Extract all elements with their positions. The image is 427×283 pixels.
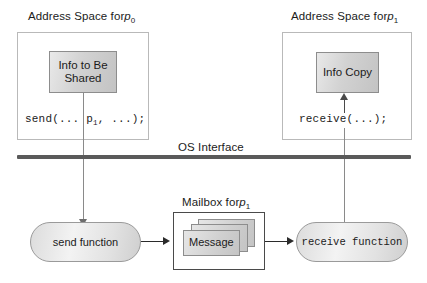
receive-to-infocopy-arrowhead (340, 93, 348, 100)
address-space-left-proc: p0 (124, 10, 135, 22)
send-function-capsule[interactable]: send function (30, 222, 141, 262)
send-call-text: send(... p1, ...); (25, 113, 145, 127)
send-to-mailbox-connector (141, 241, 165, 242)
diagram-canvas: Address Space forp0 Address Space forp1 … (0, 0, 427, 283)
send-to-mailbox-arrowhead (163, 237, 170, 245)
info-copy-label: Info Copy (323, 66, 372, 79)
address-space-right-title: Address Space forp1 (291, 10, 398, 25)
receive-to-infocopy-connector (344, 99, 345, 113)
mailbox-to-receive-arrowhead (287, 237, 294, 245)
info-copy-box: Info Copy (316, 52, 379, 93)
mailbox-frame: Message (173, 212, 265, 270)
mailbox-title-text: Mailbox for (182, 196, 239, 208)
info-to-be-shared-label: Info to Be Shared (58, 59, 107, 85)
receive-function-label: receive function (302, 236, 403, 248)
os-interface-rule (17, 155, 411, 159)
address-space-left-title-text: Address Space for (28, 10, 124, 22)
mailbox-to-receive-connector (265, 241, 289, 242)
receive-call-text: receive(...); (299, 113, 387, 125)
address-space-right-title-text: Address Space for (291, 10, 387, 22)
mailbox-proc: p1 (239, 196, 250, 208)
receive-function-capsule[interactable]: receive function (296, 222, 408, 262)
receive-flow-connector (344, 128, 345, 222)
os-interface-label: OS Interface (178, 141, 244, 153)
mailbox-title: Mailbox forp1 (182, 196, 250, 211)
info-to-be-shared-box: Info to Be Shared (49, 51, 117, 93)
message-label: Message (189, 236, 234, 248)
send-function-label: send function (53, 236, 118, 248)
address-space-left-title: Address Space forp0 (28, 10, 135, 25)
address-space-right-proc: p1 (387, 10, 398, 22)
